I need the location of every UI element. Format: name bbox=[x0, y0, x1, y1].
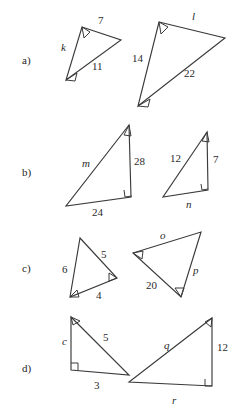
triangle-c-small: 564 bbox=[62, 238, 117, 301]
triangle-d-large-right-angle-mark-0 bbox=[205, 379, 212, 386]
triangle-c-small-side-label-5: 5 bbox=[101, 248, 107, 260]
figure-row-a: a)7k11l1422 bbox=[22, 10, 225, 107]
triangle-b-small: 127n bbox=[163, 132, 219, 210]
row-label-b: b) bbox=[22, 166, 32, 179]
triangle-a-large: l1422 bbox=[132, 10, 225, 107]
triangle-a-large-side-label-14: 14 bbox=[132, 52, 144, 64]
triangle-c-large-outline bbox=[133, 232, 201, 297]
triangle-d-large: q12r bbox=[129, 318, 228, 406]
triangle-a-small-side-label-7: 7 bbox=[98, 14, 104, 26]
triangle-b-large: m2824 bbox=[66, 125, 146, 218]
triangle-d-small-side-label-3: 3 bbox=[94, 379, 100, 391]
triangle-b-small-side-label-n: n bbox=[186, 198, 192, 210]
triangle-b-small-side-label-12: 12 bbox=[170, 152, 181, 164]
triangle-b-small-side-label-7: 7 bbox=[213, 153, 219, 165]
triangle-c-large-side-label-o: o bbox=[160, 229, 166, 241]
triangle-d-large-outline bbox=[129, 318, 212, 386]
triangle-a-large-side-label-22: 22 bbox=[184, 67, 195, 79]
triangle-a-large-outline bbox=[138, 22, 225, 106]
triangle-b-large-side-label-m: m bbox=[82, 157, 90, 169]
triangle-a-small-outline bbox=[66, 27, 121, 80]
figure-row-b: b)m2824127n bbox=[22, 125, 219, 218]
row-label-d: d) bbox=[22, 362, 32, 375]
row-label-c: c) bbox=[22, 262, 31, 275]
triangle-c-large-side-label-20: 20 bbox=[146, 279, 158, 291]
triangle-d-small-right-angle-mark-0 bbox=[71, 363, 78, 370]
triangle-b-large-outline bbox=[66, 125, 131, 206]
triangle-c-small-side-label-6: 6 bbox=[62, 263, 68, 275]
triangle-d-small-side-label-5: 5 bbox=[103, 331, 109, 343]
triangle-a-small-side-label-11: 11 bbox=[92, 60, 103, 72]
triangle-a-large-side-label-l: l bbox=[192, 10, 195, 22]
figure-canvas: a)7k11l1422b)m2824127nc)564op20d)5c3q12r bbox=[0, 0, 245, 415]
triangle-a-small: 7k11 bbox=[61, 14, 121, 81]
triangle-d-large-side-label-12: 12 bbox=[217, 341, 228, 353]
triangle-c-large-side-label-p: p bbox=[192, 264, 199, 276]
triangle-c-small-side-label-4: 4 bbox=[96, 289, 102, 301]
triangle-d-small-side-label-c: c bbox=[62, 335, 67, 347]
similar-triangles-figure: a)7k11l1422b)m2824127nc)564op20d)5c3q12r bbox=[0, 0, 245, 415]
triangle-c-small-outline bbox=[70, 238, 117, 297]
triangle-b-small-right-angle-mark-0 bbox=[201, 184, 208, 190]
triangle-d-small-outline bbox=[71, 317, 129, 375]
triangle-b-large-side-label-24: 24 bbox=[92, 206, 104, 218]
row-label-a: a) bbox=[22, 54, 31, 67]
figure-row-c: c)564op20 bbox=[22, 229, 201, 301]
triangle-d-large-side-label-q: q bbox=[164, 339, 170, 351]
figure-row-d: d)5c3q12r bbox=[22, 317, 228, 406]
triangle-b-large-side-label-28: 28 bbox=[134, 155, 146, 167]
triangle-d-large-side-label-r: r bbox=[172, 394, 177, 406]
triangle-c-large: op20 bbox=[133, 229, 201, 297]
triangle-d-small: 5c3 bbox=[62, 317, 129, 391]
triangle-a-small-side-label-k: k bbox=[61, 41, 67, 53]
